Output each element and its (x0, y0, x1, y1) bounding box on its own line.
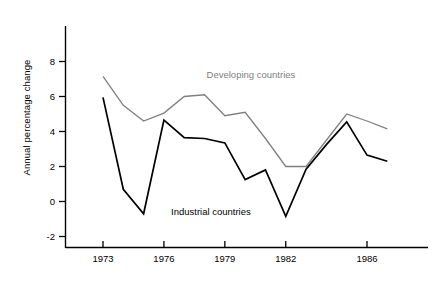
x-axis-tick-label: 1982 (275, 253, 296, 264)
x-axis-tick-label: 1986 (356, 253, 377, 264)
y-axis-tick-label: -2 (47, 231, 55, 242)
x-axis-tick-label: 1973 (92, 253, 113, 264)
y-axis-tick-label: 8 (50, 56, 55, 67)
y-axis: -202468 (47, 26, 66, 248)
x-axis-tick-label: 1976 (153, 253, 174, 264)
series-label-industrial-countries: Industrial countries (171, 206, 251, 217)
x-axis-tick-label: 1979 (214, 253, 235, 264)
series-line-developing-countries (103, 76, 387, 166)
y-axis-tick-label: 0 (50, 196, 55, 207)
line-chart: -202468 19731976197919821986 Developing … (0, 0, 444, 284)
x-axis-ticks: 19731976197919821986 (92, 241, 377, 264)
series-line-industrial-countries (103, 97, 387, 216)
chart-container: Annual percentage change -202468 1973197… (0, 0, 444, 284)
y-axis-tick-label: 6 (50, 91, 55, 102)
data-series-group (103, 76, 387, 216)
x-axis: 19731976197919821986 (66, 241, 429, 264)
y-axis-ticks: -202468 (47, 56, 66, 242)
y-axis-tick-label: 4 (50, 126, 55, 137)
y-axis-tick-label: 2 (50, 161, 55, 172)
y-axis-title: Annual percentage change (21, 28, 32, 208)
series-label-developing-countries: Developing countries (207, 69, 296, 80)
